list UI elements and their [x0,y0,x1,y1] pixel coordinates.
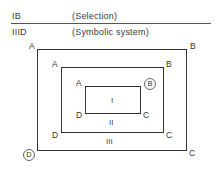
middle-label-c: C [166,131,172,140]
middle-label-b: B [166,60,172,69]
outer-label-a: A [29,42,35,51]
region-iii-label: III [106,137,113,146]
region-ii-label: II [109,118,113,127]
middle-label-a: A [52,60,58,69]
inner-label-b-circled: B [144,78,156,90]
header-row-1-label: (Selection) [72,11,117,21]
inner-label-c: C [143,111,149,120]
header-row-2-code: IIID [12,27,27,37]
inner-label-d: D [76,111,82,120]
header-row-2-label: (Symbolic system) [72,27,149,37]
header-divider [11,23,211,24]
middle-label-d: D [52,131,58,140]
region-i-label: I [111,96,113,105]
outer-label-c: C [189,149,195,158]
inner-label-a: A [76,79,82,88]
outer-label-b: B [190,42,196,51]
header-row-1-code: IB [12,11,21,21]
outer-label-d-circled: D [23,149,35,161]
